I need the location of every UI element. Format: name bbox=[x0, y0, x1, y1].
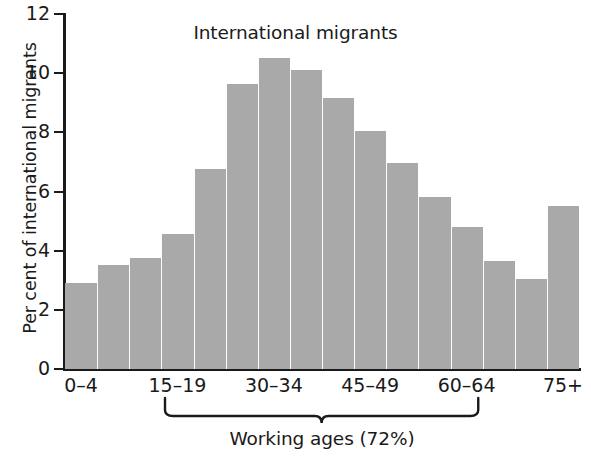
x-axis-tick-label: 30–34 bbox=[245, 374, 303, 396]
bar-column bbox=[226, 14, 258, 369]
y-axis-tick-label: 10 bbox=[6, 63, 50, 82]
bar bbox=[129, 258, 161, 369]
y-axis-tick-label: 12 bbox=[6, 4, 50, 23]
x-axis-tick-label: 15–19 bbox=[149, 374, 207, 396]
bar-column bbox=[129, 14, 161, 369]
bar-series bbox=[65, 14, 579, 369]
bar-column bbox=[161, 14, 193, 369]
bar bbox=[547, 206, 579, 369]
bar bbox=[226, 84, 258, 369]
bar-column bbox=[386, 14, 418, 369]
y-axis-tick-label: 4 bbox=[6, 241, 50, 260]
plot-area bbox=[65, 14, 579, 369]
y-axis-tick-label: 2 bbox=[6, 300, 50, 319]
chart-title: International migrants bbox=[0, 22, 591, 43]
bar bbox=[418, 197, 450, 369]
bar bbox=[451, 227, 483, 369]
bar-column bbox=[451, 14, 483, 369]
bar-column bbox=[258, 14, 290, 369]
bar bbox=[354, 131, 386, 369]
chart-figure: Per cent of international migrants 02468… bbox=[0, 0, 591, 462]
x-axis-tick-label: 0–4 bbox=[64, 374, 98, 396]
x-axis-tick-label: 75+ bbox=[543, 374, 583, 396]
bar-column bbox=[515, 14, 547, 369]
bar-column bbox=[290, 14, 322, 369]
bar bbox=[515, 279, 547, 369]
x-axis-tick-label: 45–49 bbox=[341, 374, 399, 396]
x-axis-tick-label: 60–64 bbox=[438, 374, 496, 396]
bar bbox=[322, 98, 354, 369]
bar-column bbox=[97, 14, 129, 369]
bar-column bbox=[418, 14, 450, 369]
bar bbox=[65, 283, 97, 369]
bar bbox=[97, 265, 129, 369]
working-ages-label: Working ages (72%) bbox=[161, 428, 482, 449]
bar bbox=[194, 169, 226, 369]
y-axis-tick-label: 6 bbox=[6, 182, 50, 201]
bar-column bbox=[194, 14, 226, 369]
bar bbox=[483, 261, 515, 369]
bar-column bbox=[65, 14, 97, 369]
working-ages-bracket bbox=[161, 396, 482, 426]
y-axis-tick-label: 8 bbox=[6, 122, 50, 141]
bar-column bbox=[547, 14, 579, 369]
bar-column bbox=[322, 14, 354, 369]
bar bbox=[161, 234, 193, 369]
bracket-icon bbox=[161, 396, 482, 426]
bar-column bbox=[483, 14, 515, 369]
bar-column bbox=[354, 14, 386, 369]
bar bbox=[290, 70, 322, 369]
bar bbox=[258, 58, 290, 369]
bar bbox=[386, 163, 418, 369]
